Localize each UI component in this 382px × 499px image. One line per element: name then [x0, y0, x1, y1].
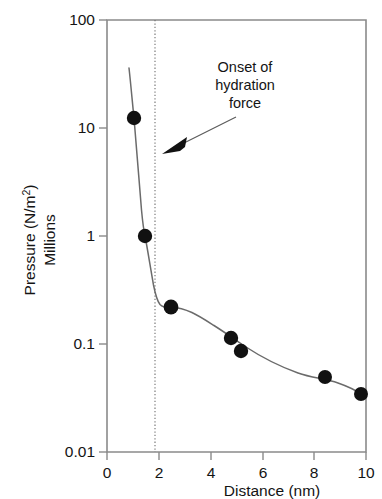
x-tick-label: 6 — [259, 464, 268, 481]
annotation-line-3: force — [229, 95, 261, 111]
data-point — [138, 229, 152, 243]
data-point — [234, 344, 248, 358]
data-point — [127, 111, 141, 125]
x-tick-label: 2 — [155, 464, 164, 481]
x-tick-label: 4 — [207, 464, 216, 481]
y-axis-title-line-2: Millions — [41, 214, 58, 266]
chart-figure: Onset of hydration force 100 10 1 0.1 0.… — [0, 0, 382, 499]
y-tick-label: 10 — [78, 119, 96, 136]
y-tick-label: 1 — [86, 227, 95, 244]
data-point — [354, 387, 368, 401]
y-tick-label: 0.01 — [65, 443, 95, 460]
annotation-line-2: hydration — [215, 77, 275, 93]
annotation-line-1: Onset of — [218, 59, 274, 75]
y-axis-title-line-1: Pressure (N/m2) — [20, 185, 38, 296]
y-axis-title-secondary: Millions — [41, 214, 58, 266]
y-axis-title: Pressure (N/m2) — [20, 185, 38, 296]
x-tick-label: 10 — [357, 464, 375, 481]
data-point — [164, 300, 179, 315]
data-point — [318, 370, 332, 384]
y-tick-label: 0.1 — [73, 335, 95, 352]
pressure-vs-distance-chart: Onset of hydration force 100 10 1 0.1 0.… — [0, 0, 382, 499]
x-axis-title: Distance (nm) — [224, 482, 320, 499]
x-tick-label: 0 — [103, 464, 112, 481]
x-tick-label: 8 — [310, 464, 319, 481]
data-point — [224, 331, 238, 345]
y-tick-label: 100 — [69, 11, 95, 28]
